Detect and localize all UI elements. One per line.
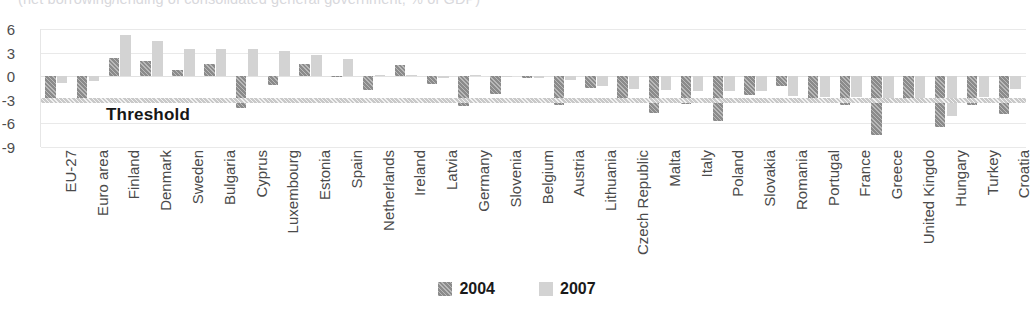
bar-2004 <box>236 76 246 108</box>
chart-legend: 20042007 <box>0 280 1034 298</box>
bar-2007 <box>438 76 448 78</box>
bar-2004 <box>744 76 754 95</box>
bar-2004 <box>109 58 119 76</box>
bar-group <box>836 29 868 147</box>
y-axis-tick-label: 6 <box>0 21 15 38</box>
bar-groups <box>41 29 1026 147</box>
x-axis-category: Ireland <box>391 150 423 268</box>
legend-label: 2007 <box>560 280 596 298</box>
y-axis-tick-label: 3 <box>0 44 15 61</box>
y-axis-tick-label: 0 <box>0 68 15 85</box>
x-axis-category: Belgium <box>518 150 550 268</box>
x-axis-category: Euro area <box>73 150 105 268</box>
bar-2007 <box>311 55 321 76</box>
bar-2007 <box>724 76 734 91</box>
legend-label: 2004 <box>459 280 495 298</box>
bar-2004 <box>585 76 595 88</box>
chart-root: (net borrowing/lending of consolidated g… <box>0 0 1034 315</box>
bar-2007 <box>565 76 575 80</box>
bar-2007 <box>851 76 861 97</box>
bar-2007 <box>375 75 385 77</box>
x-axis-category: France <box>836 150 868 268</box>
bar-2004 <box>268 76 278 85</box>
bar-group <box>677 29 709 147</box>
bar-group <box>550 29 582 147</box>
bar-group <box>931 29 963 147</box>
bar-2004 <box>776 76 786 85</box>
bar-group <box>136 29 168 147</box>
x-axis-category: Estonia <box>295 150 327 268</box>
bar-group <box>899 29 931 147</box>
y-axis-tick-label: -6 <box>0 115 15 132</box>
x-axis-category: Cyprus <box>232 150 264 268</box>
legend-swatch-icon <box>539 282 553 296</box>
bar-group <box>391 29 423 147</box>
x-axis-category: Netherlands <box>359 150 391 268</box>
bar-2007 <box>406 75 416 77</box>
bar-2007 <box>502 76 512 77</box>
gridline <box>41 147 1026 148</box>
bar-2007 <box>57 76 67 83</box>
x-axis-category: Slovenia <box>486 150 518 268</box>
bar-group <box>422 29 454 147</box>
x-axis-category: Latvia <box>422 150 454 268</box>
legend-swatch-icon <box>438 282 452 296</box>
bar-2004 <box>617 76 627 100</box>
x-axis-category: Romania <box>772 150 804 268</box>
bar-group <box>645 29 677 147</box>
bar-2007 <box>883 76 893 98</box>
bar-group <box>518 29 550 147</box>
bar-2007 <box>248 49 258 76</box>
legend-item[interactable]: 2007 <box>539 280 596 298</box>
bar-group <box>772 29 804 147</box>
y-axis-tick-label: -9 <box>0 139 15 156</box>
threshold-label: Threshold <box>106 105 190 125</box>
bar-2004 <box>331 76 341 77</box>
bar-group <box>454 29 486 147</box>
bar-2007 <box>343 59 353 76</box>
bar-2004 <box>395 65 405 76</box>
bar-2007 <box>629 76 639 89</box>
bar-2004 <box>871 76 881 135</box>
bar-2004 <box>45 76 55 99</box>
bar-group <box>295 29 327 147</box>
x-axis-category: United Kingdo <box>899 150 931 268</box>
bar-group <box>73 29 105 147</box>
bar-group <box>359 29 391 147</box>
bar-2007 <box>979 76 989 96</box>
chart-title: (net borrowing/lending of consolidated g… <box>18 0 480 7</box>
x-axis-category: Denmark <box>136 150 168 268</box>
threshold-line <box>41 98 1026 103</box>
y-axis-tick-label: -3 <box>0 91 15 108</box>
bar-2004 <box>522 76 532 78</box>
bar-group <box>168 29 200 147</box>
bar-2004 <box>490 76 500 94</box>
bar-2007 <box>120 35 130 77</box>
x-axis-category: Slovakia <box>740 150 772 268</box>
x-axis-category: Luxembourg <box>263 150 295 268</box>
bar-2007 <box>152 41 162 76</box>
bar-2007 <box>820 76 830 96</box>
bar-2007 <box>184 49 194 77</box>
x-axis-category: Poland <box>708 150 740 268</box>
bar-2004 <box>172 70 182 76</box>
bar-2004 <box>140 61 150 76</box>
bar-group <box>200 29 232 147</box>
bar-group <box>327 29 359 147</box>
bar-group <box>232 29 264 147</box>
plot-area <box>41 29 1026 147</box>
bar-2004 <box>363 76 373 89</box>
x-axis-category: Italy <box>677 150 709 268</box>
legend-item[interactable]: 2004 <box>438 280 495 298</box>
bar-2004 <box>649 76 659 113</box>
x-axis-category: Lithuania <box>581 150 613 268</box>
bar-2004 <box>299 64 309 77</box>
bar-2007 <box>661 76 671 90</box>
bar-group <box>804 29 836 147</box>
bar-2007 <box>756 76 766 91</box>
bar-group <box>486 29 518 147</box>
bar-2007 <box>470 75 480 77</box>
x-axis-category: Portugal <box>804 150 836 268</box>
x-axis-category: Turkey <box>963 150 995 268</box>
bar-2007 <box>788 76 798 96</box>
